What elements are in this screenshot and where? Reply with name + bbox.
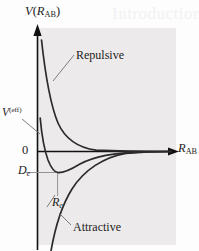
label-veff-sup: (eff): [9, 106, 22, 114]
y-axis-label-sub: AB: [44, 10, 55, 19]
label-repulsive: Repulsive: [76, 49, 124, 61]
label-re-sub: e: [59, 201, 63, 210]
diagram-canvas: [0, 0, 199, 251]
label-re: Re: [52, 196, 63, 210]
x-axis-label-sub: AB: [186, 147, 197, 156]
label-de-d: D: [18, 163, 27, 177]
label-attractive: Attractive: [73, 221, 121, 233]
label-de: De: [18, 164, 30, 178]
label-veff: V(eff): [2, 107, 22, 119]
y-axis-label-v: V: [25, 4, 33, 18]
y-axis-label: V(RAB): [25, 5, 60, 19]
y-axis-label-paren-close: ): [56, 4, 60, 18]
label-veff-v: V: [2, 106, 9, 118]
label-de-sub: e: [27, 169, 31, 178]
x-axis-label: RAB: [178, 142, 197, 156]
label-zero-energy: 0: [22, 144, 28, 157]
x-axis-label-r: R: [178, 141, 186, 155]
potential-energy-diagram: Introduction V(RAB) RAB Repulsive: [0, 0, 199, 251]
